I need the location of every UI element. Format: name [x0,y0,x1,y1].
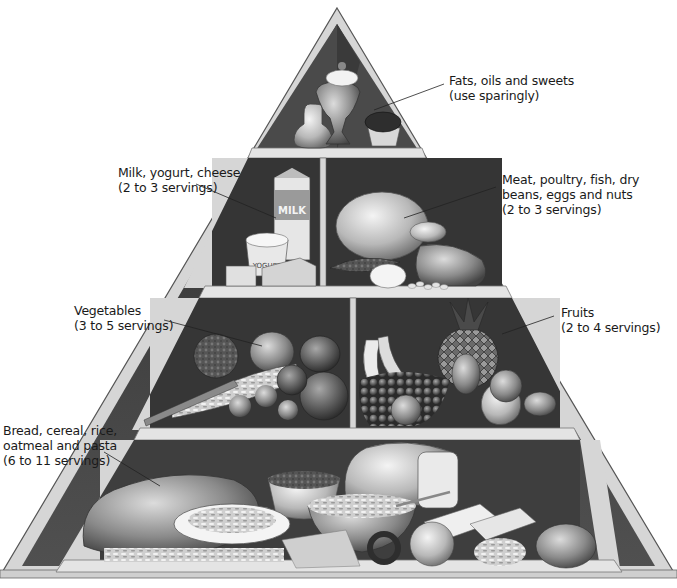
svg-text:MILK: MILK [278,205,307,216]
label-line: Meat, poultry, fish, dry [502,172,639,187]
label-line: Milk, yogurt, cheese [118,165,240,180]
label-line: (6 to 11 servings) [3,453,117,468]
label-line: Bread, cereal, rice, [3,423,117,438]
tier-fats-oils-sweets [248,24,426,158]
label-line: (2 to 4 servings) [561,320,660,335]
label-line: (use sparingly) [449,88,574,103]
label-line: beans, eggs and nuts [502,187,639,202]
pyramid-illustration: MILK YOGURT [0,0,677,588]
label-meat-poultry-fish: Meat, poultry, fish, dry beans, eggs and… [502,172,639,217]
label-fats-oils-sweets: Fats, oils and sweets (use sparingly) [449,73,574,103]
label-vegetables: Vegetables (3 to 5 servings) [74,303,173,333]
label-line: Fats, oils and sweets [449,73,574,88]
tier-vegetables-fruits [132,298,580,440]
label-line: Fruits [561,305,660,320]
tier-bread-cereal-rice-pasta [56,440,622,572]
label-line: (3 to 5 servings) [74,318,173,333]
label-milk-yogurt-cheese: Milk, yogurt, cheese (2 to 3 servings) [118,165,240,195]
label-bread-cereal-rice-pasta: Bread, cereal, rice, oatmeal and pasta (… [3,423,117,468]
label-line: (2 to 3 servings) [118,180,240,195]
label-line: (2 to 3 servings) [502,202,639,217]
label-line: Vegetables [74,303,173,318]
label-fruits: Fruits (2 to 4 servings) [561,305,660,335]
label-line: oatmeal and pasta [3,438,117,453]
food-pyramid-diagram: MILK YOGURT [0,0,677,588]
